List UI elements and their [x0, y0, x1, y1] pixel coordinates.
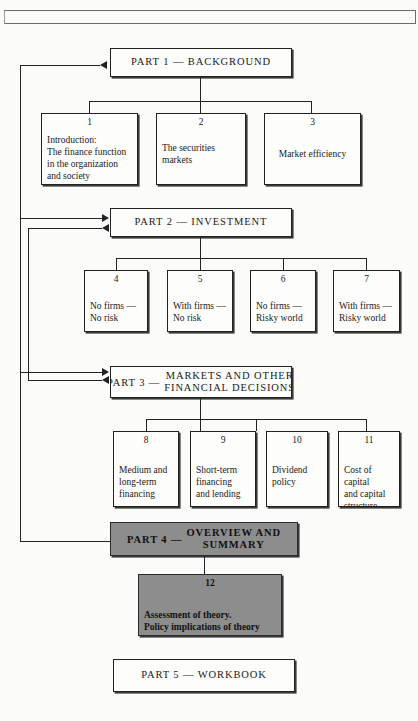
chapter-number: 7 — [339, 274, 394, 286]
part3-stack-line: FINANCIAL DECISIONS — [164, 382, 292, 394]
part1-drop-2 — [200, 101, 201, 113]
chapter-box-12[interactable]: 12 Assessment of theory. Policy implicat… — [138, 574, 282, 636]
chapter-text: Market efficiency — [270, 148, 355, 160]
chapter-text: Short-term financing and lending — [196, 464, 250, 500]
part1-label: PART 1 — BACKGROUND — [131, 56, 271, 68]
chapter-box-8[interactable]: 8 Medium and long-term financing — [113, 431, 179, 507]
chapter-box-9[interactable]: 9 Short-term financing and lending — [190, 431, 256, 507]
chapter-text: Medium and long-term financing — [119, 464, 173, 500]
chapter-text: With firms — Risky world — [339, 300, 394, 324]
chapter-box-10[interactable]: 10 Dividend policy — [266, 431, 328, 507]
chapter-text-line: markets — [162, 154, 240, 166]
part5-box[interactable]: PART 5 — WORKBOOK — [113, 659, 295, 692]
part3-stack-line: MARKETS AND OTHER — [166, 370, 292, 382]
part3-box[interactable]: PART 3 — MARKETS AND OTHER FINANCIAL DEC… — [110, 366, 292, 398]
chapter-text-line: Cost of — [344, 464, 394, 476]
part3-drop-10 — [256, 419, 257, 431]
chapter-box-1[interactable]: 1 Introduction: The finance function in … — [41, 113, 138, 185]
part1-drop-1 — [89, 101, 90, 113]
feed-in-line-part3 — [20, 372, 102, 373]
chapter-box-6[interactable]: 6 No firms — Risky world — [250, 270, 316, 332]
chapter-text: With firms — No risk — [173, 300, 227, 324]
part4-stack: OVERVIEW AND SUMMARY — [186, 527, 281, 551]
chapter-text-line: and society — [47, 170, 132, 182]
part1-box[interactable]: PART 1 — BACKGROUND — [110, 48, 292, 77]
chapter-text-line: and lending — [196, 488, 250, 500]
part2-bracket — [116, 258, 366, 259]
chapter-text-line: With firms — — [173, 300, 227, 312]
feed-in-line-part2 — [20, 218, 102, 219]
chapter-text-line: Risky world — [339, 312, 394, 324]
feedback-arrow-into-part2 — [102, 224, 109, 232]
part3-stack: MARKETS AND OTHER FINANCIAL DECISIONS — [164, 370, 292, 394]
chapter-number: 2 — [162, 117, 240, 129]
chapter-box-4[interactable]: 4 No firms — No risk — [84, 270, 148, 332]
chapter-text: Introduction: The finance function in th… — [47, 134, 132, 183]
part3-lead: PART 3 — — [110, 377, 160, 388]
part2-drop-7 — [366, 258, 367, 270]
chapter-number: 10 — [272, 435, 322, 447]
chapter-text: Dividend policy — [272, 464, 322, 488]
part3-drop-9 — [200, 419, 201, 431]
chapter-text-line: Short-term — [196, 464, 250, 476]
chapter-text-line: Medium and — [119, 464, 173, 476]
chapter-text-line: in the organization — [47, 158, 132, 170]
diagram-canvas: PART 1 — BACKGROUND 1 Introduction: The … — [0, 0, 418, 721]
chapter-number: 1 — [47, 117, 132, 129]
chapter-box-5[interactable]: 5 With firms — No risk — [167, 270, 233, 332]
feedback-line-outer-bottom — [20, 541, 117, 542]
feed-in-arrow-part2 — [102, 214, 109, 222]
feedback-line-inner-top — [28, 228, 102, 229]
page-frame-rule — [4, 10, 416, 24]
feedback-line-outer-vertical — [20, 65, 21, 542]
part4-lead: PART 4 — — [127, 534, 182, 545]
chapter-box-11[interactable]: 11 Cost of capital and capital structure — [338, 431, 400, 507]
part3-drop-8 — [146, 419, 147, 431]
chapter-text: The securities markets — [162, 142, 240, 166]
part2-stem — [200, 237, 201, 258]
chapter-text-line: No firms — — [90, 300, 142, 312]
chapter-text-line: Policy implications of theory — [144, 621, 276, 633]
chapter-text: No firms — No risk — [90, 300, 142, 324]
chapter-box-7[interactable]: 7 With firms — Risky world — [333, 270, 400, 332]
part2-drop-4 — [116, 258, 117, 270]
part2-drop-6 — [283, 258, 284, 270]
chapter-number: 8 — [119, 435, 173, 447]
feedback-line-inner-bottom — [28, 380, 102, 381]
chapter-number: 4 — [90, 274, 142, 286]
part4-stack-line: OVERVIEW AND — [186, 527, 281, 539]
feedback-line-inner-vertical — [28, 228, 29, 380]
chapter-text-line: and capital — [344, 488, 394, 500]
part4-stack-line: SUMMARY — [203, 539, 265, 551]
chapter-text-line: Introduction: — [47, 134, 132, 146]
chapter-text-line: No firms — — [256, 300, 310, 312]
part2-drop-5 — [200, 258, 201, 270]
chapter-box-2[interactable]: 2 The securities markets — [156, 113, 246, 185]
part3-drop-11 — [366, 419, 367, 431]
feed-in-arrow-part3 — [102, 368, 109, 376]
chapter-number: 9 — [196, 435, 250, 447]
chapter-text-line: Assessment of theory. — [144, 609, 276, 621]
chapter-text-line: No risk — [173, 312, 227, 324]
feedback-line-outer-top — [20, 65, 100, 66]
chapter-text-line: financing — [196, 476, 250, 488]
chapter-text-line: Market efficiency — [270, 148, 355, 160]
part4-label: PART 4 — OVERVIEW AND SUMMARY — [127, 527, 281, 551]
part5-label: PART 5 — WORKBOOK — [141, 669, 267, 681]
part4-box[interactable]: PART 4 — OVERVIEW AND SUMMARY — [110, 522, 298, 556]
chapter-number: 3 — [270, 117, 355, 129]
chapter-box-3[interactable]: 3 Market efficiency — [264, 113, 361, 185]
chapter-text-line: capital — [344, 476, 394, 488]
chapter-text-line: long-term — [119, 476, 173, 488]
part2-box[interactable]: PART 2 — INVESTMENT — [110, 208, 292, 237]
chapter-text-line: No risk — [90, 312, 142, 324]
chapter-text-line: financing — [119, 488, 173, 500]
chapter-number: 12 — [144, 578, 276, 590]
chapter-text-line: Dividend — [272, 464, 322, 476]
part2-label: PART 2 — INVESTMENT — [135, 216, 268, 228]
part1-drop-3 — [311, 101, 312, 113]
part1-stem — [200, 77, 201, 101]
feedback-arrow-into-part1 — [100, 61, 107, 69]
part3-label: PART 3 — MARKETS AND OTHER FINANCIAL DEC… — [110, 370, 292, 394]
chapter-text-line: policy — [272, 476, 322, 488]
